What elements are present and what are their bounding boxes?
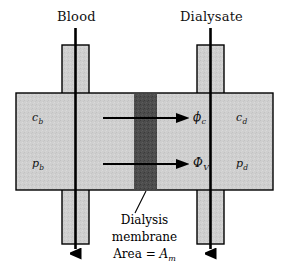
blood-concentration-label: cb [32, 112, 43, 123]
dialysis-membrane [134, 94, 157, 190]
dialysis-diagram: Blood Dialysate cb pb cd pd ϕc ΦV Dialys… [0, 0, 289, 280]
caption-line-dialysis: Dialysis [0, 214, 289, 226]
dialysate-stream-label: Dialysate [180, 10, 243, 23]
caption-leader-line-icon [135, 191, 146, 213]
blood-concentration-subscript: b [38, 117, 43, 126]
blood-pressure-label: pb [32, 158, 44, 169]
blood-pressure-subscript: b [39, 163, 44, 172]
blood-pressure-symbol: p [32, 157, 39, 170]
volume-flux-label: ΦV [193, 157, 209, 169]
caption-area-symbol: A [160, 247, 169, 261]
caption-area-subscript: m [168, 254, 176, 263]
caption-area-prefix: Area = [113, 247, 159, 261]
dialysate-concentration-label: cd [236, 112, 247, 123]
caption-line-area: Area = Am [0, 248, 289, 260]
blood-stream-label: Blood [57, 10, 96, 23]
dialysate-pressure-subscript: d [243, 163, 248, 172]
volume-flux-subscript: V [203, 163, 209, 172]
solute-flux-subscript: c [202, 117, 206, 126]
volume-flux-symbol: Φ [193, 156, 203, 170]
dialysate-concentration-subscript: d [242, 117, 247, 126]
dialysate-pressure-symbol: p [236, 157, 243, 170]
solute-flux-symbol: ϕ [193, 110, 201, 124]
caption-line-membrane: membrane [0, 231, 289, 243]
solute-flux-label: ϕc [193, 111, 206, 123]
dialysate-pressure-label: pd [236, 158, 248, 169]
